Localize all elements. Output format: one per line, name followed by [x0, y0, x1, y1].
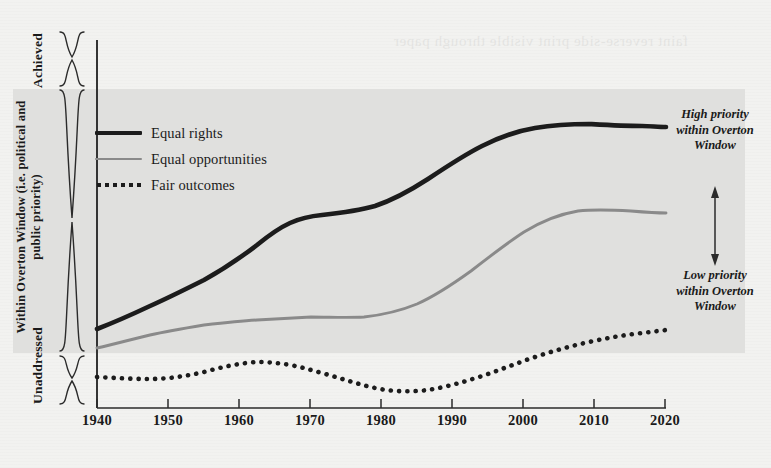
- legend-item-equal-rights[interactable]: Equal rights: [95, 122, 267, 144]
- legend-label-fair-outcomes: Fair outcomes: [151, 177, 235, 194]
- x-tick-1990: 1990: [437, 412, 467, 429]
- x-tick-1940: 1940: [82, 412, 112, 429]
- legend-label-equal-opportunities: Equal opportunities: [151, 151, 267, 168]
- x-axis-tick-labels: 1940 1950 1960 1970 1980 1990 2000 2010 …: [0, 412, 771, 436]
- brace-achieved: [60, 32, 84, 86]
- series-line-equal-opportunities: [97, 210, 666, 348]
- legend-swatch-equal-opportunities: [95, 152, 142, 166]
- brace-unaddressed: [60, 356, 84, 404]
- legend-item-fair-outcomes[interactable]: Fair outcomes: [95, 174, 267, 196]
- annotation-high-priority: High priority within Overton Window: [672, 107, 758, 154]
- chart-svg: [0, 0, 771, 468]
- x-tick-1950: 1950: [153, 412, 183, 429]
- x-tick-2010: 2010: [579, 412, 609, 429]
- x-tick-1960: 1960: [224, 412, 254, 429]
- x-tick-2020: 2020: [650, 412, 680, 429]
- x-axis-ticks: [97, 399, 665, 408]
- legend-swatch-equal-rights: [95, 126, 142, 140]
- x-tick-1970: 1970: [295, 412, 325, 429]
- y-group-label-overton-window: Within Overton Window (i.e. political an…: [14, 86, 44, 348]
- y-group-label-achieved: Achieved: [30, 33, 46, 88]
- series-line-fair-outcomes: [97, 330, 666, 391]
- x-tick-1980: 1980: [366, 412, 396, 429]
- priority-double-arrow: [711, 186, 719, 266]
- legend-label-equal-rights: Equal rights: [151, 125, 223, 142]
- annotation-low-priority: Low priority within Overton Window: [672, 268, 758, 315]
- y-group-label-unaddressed: Unaddressed: [30, 327, 46, 404]
- chart-legend: Equal rights Equal opportunities Fair ou…: [95, 122, 267, 200]
- chart-plot-area: Achieved Within Overton Window (i.e. pol…: [0, 0, 771, 468]
- legend-swatch-fair-outcomes: [95, 178, 142, 192]
- legend-item-equal-opportunities[interactable]: Equal opportunities: [95, 148, 267, 170]
- brace-overton-window: [60, 90, 84, 351]
- x-tick-2000: 2000: [508, 412, 538, 429]
